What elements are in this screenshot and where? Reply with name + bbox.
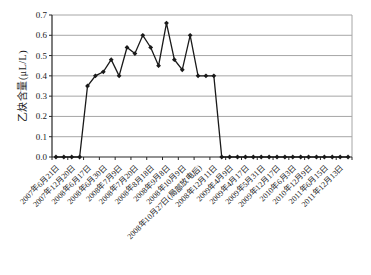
y-axis-tick-label: 0.1: [36, 132, 47, 142]
data-point-marker: [267, 155, 272, 160]
y-axis-tick-label: 0.6: [36, 30, 48, 40]
y-axis-tick-label: 0.5: [36, 51, 48, 61]
data-point-marker: [196, 73, 201, 78]
data-point-marker: [54, 155, 59, 160]
acetylene-trend-chart: 0.00.10.20.30.40.50.60.72007年6月21日2007年1…: [0, 0, 371, 275]
data-point-marker: [219, 155, 224, 160]
data-point-marker: [61, 155, 66, 160]
data-point-marker: [77, 155, 82, 160]
y-axis-tick-label: 0.2: [36, 111, 47, 121]
data-point-marker: [306, 155, 311, 160]
data-point-marker: [188, 33, 193, 38]
chart-canvas: 0.00.10.20.30.40.50.60.72007年6月21日2007年1…: [0, 0, 371, 275]
data-point-marker: [298, 155, 303, 160]
data-point-marker: [235, 155, 240, 160]
data-point-marker: [330, 155, 335, 160]
y-axis-tick-label: 0.4: [36, 71, 48, 81]
data-point-marker: [346, 155, 351, 160]
data-point-marker: [156, 63, 161, 68]
data-point-marker: [243, 155, 248, 160]
data-point-marker: [204, 73, 209, 78]
y-axis-tick-label: 0.3: [36, 91, 48, 101]
data-point-marker: [211, 73, 216, 78]
data-point-marker: [282, 155, 287, 160]
data-point-marker: [117, 73, 122, 78]
y-axis-tick-label: 0.0: [36, 152, 48, 162]
data-point-marker: [227, 155, 232, 160]
data-point-marker: [259, 155, 264, 160]
y-axis-tick-label: 0.7: [36, 10, 48, 20]
data-point-marker: [69, 155, 74, 160]
data-point-marker: [164, 21, 169, 26]
data-point-marker: [314, 155, 319, 160]
data-point-marker: [322, 155, 327, 160]
data-point-marker: [275, 155, 280, 160]
data-point-marker: [290, 155, 295, 160]
data-point-marker: [338, 155, 343, 160]
data-point-marker: [251, 155, 256, 160]
y-axis-title: 乙炔含量(μL/L): [14, 50, 29, 122]
